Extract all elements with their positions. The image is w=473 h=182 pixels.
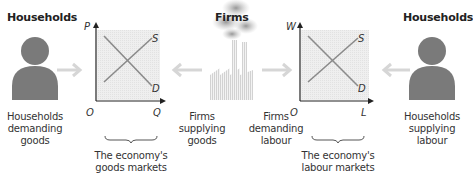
households-heading-right: Households bbox=[403, 11, 473, 24]
caption-line: Firms bbox=[245, 111, 307, 123]
arrow-right-icon bbox=[57, 64, 80, 76]
caption-line: supplying bbox=[172, 123, 232, 135]
household-person-icon-right bbox=[409, 37, 455, 100]
firms-heading: Firms bbox=[215, 11, 249, 24]
caption-line: goods bbox=[172, 135, 232, 147]
labour-x-axis-label: L bbox=[361, 107, 367, 118]
arrow-left-icon bbox=[384, 64, 410, 76]
goods-y-axis-label: P bbox=[84, 21, 90, 32]
households-supplying-labour-caption: Households supplying labour bbox=[398, 111, 466, 147]
caption-line: supplying bbox=[398, 123, 466, 135]
caption-line: labour bbox=[245, 135, 307, 147]
firms-supplying-goods-caption: Firms supplying goods bbox=[172, 111, 232, 147]
households-demanding-goods-caption: Households demanding goods bbox=[0, 111, 70, 147]
labour-markets-caption: The economy's labour markets bbox=[294, 150, 382, 174]
firms-demanding-labour-caption: Firms demanding labour bbox=[245, 111, 307, 147]
households-heading-left: Households bbox=[7, 11, 77, 24]
goods-supply-label: S bbox=[152, 33, 158, 44]
labour-demand-label: D bbox=[358, 83, 366, 94]
caption-line: Households bbox=[398, 111, 466, 123]
goods-markets-brace bbox=[105, 136, 157, 143]
caption-line: demanding bbox=[245, 123, 307, 135]
goods-markets-caption: The economy's goods markets bbox=[88, 150, 174, 174]
caption-line: Firms bbox=[172, 111, 232, 123]
caption-line: The economy's bbox=[88, 150, 174, 162]
arrow-left-icon bbox=[174, 64, 202, 76]
caption-line: goods markets bbox=[88, 162, 174, 174]
goods-x-axis-label: Q bbox=[153, 107, 161, 118]
caption-line: The economy's bbox=[294, 150, 382, 162]
arrow-right-icon bbox=[262, 64, 290, 76]
labour-y-axis-label: W bbox=[286, 21, 296, 32]
caption-line: goods bbox=[0, 135, 70, 147]
labour-markets-brace bbox=[312, 136, 364, 143]
caption-line: labour bbox=[398, 135, 466, 147]
caption-line: labour markets bbox=[294, 162, 382, 174]
caption-line: demanding bbox=[0, 123, 70, 135]
caption-line: Households bbox=[0, 111, 70, 123]
goods-origin-label: O bbox=[86, 107, 94, 118]
labour-supply-label: S bbox=[358, 33, 364, 44]
household-person-icon-left bbox=[12, 37, 58, 100]
goods-demand-label: D bbox=[152, 83, 160, 94]
